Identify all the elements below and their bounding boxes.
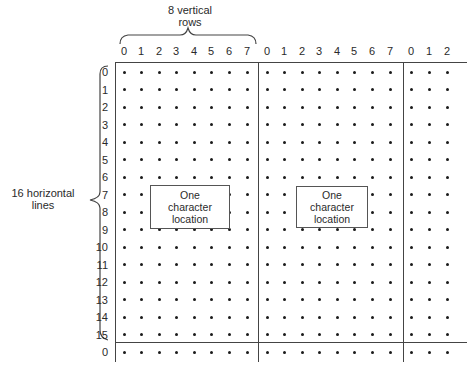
matrix-dot (266, 88, 269, 91)
matrix-dot (193, 316, 196, 319)
matrix-dot (428, 281, 431, 284)
matrix-dot (266, 351, 269, 354)
matrix-dot (123, 88, 126, 91)
matrix-dot (140, 316, 143, 319)
matrix-dot (389, 351, 392, 354)
matrix-dot (301, 298, 304, 301)
matrix-dot (410, 351, 413, 354)
matrix-dot (301, 281, 304, 284)
matrix-dot (389, 246, 392, 249)
matrix-dot (371, 298, 374, 301)
left-grid-line (115, 62, 116, 362)
matrix-dot (140, 281, 143, 284)
matrix-dot (123, 193, 126, 196)
matrix-dot (371, 106, 374, 109)
matrix-dot (410, 316, 413, 319)
matrix-dot (336, 351, 339, 354)
matrix-dot (410, 176, 413, 179)
matrix-dot (210, 176, 213, 179)
matrix-dot (228, 281, 231, 284)
matrix-dot (336, 123, 339, 126)
matrix-dot (266, 71, 269, 74)
row-header: 14 (90, 311, 108, 323)
matrix-dot (371, 333, 374, 336)
vertical-rows-line2: rows (140, 16, 240, 28)
matrix-dot (123, 176, 126, 179)
matrix-dot (246, 141, 249, 144)
matrix-dot (428, 351, 431, 354)
matrix-dot (158, 281, 161, 284)
matrix-dot (175, 298, 178, 301)
matrix-dot (353, 106, 356, 109)
matrix-dot (266, 106, 269, 109)
vertical-rows-label: 8 vertical rows (140, 4, 240, 28)
box-2-line1: One (297, 189, 367, 201)
bottom-grid-line (115, 342, 467, 343)
matrix-dot (301, 176, 304, 179)
matrix-dot (353, 316, 356, 319)
matrix-dot (140, 263, 143, 266)
matrix-dot (246, 106, 249, 109)
matrix-dot (158, 333, 161, 336)
matrix-dot (158, 123, 161, 126)
matrix-dot (228, 263, 231, 266)
matrix-dot (389, 316, 392, 319)
row-header: 0 (90, 66, 108, 78)
matrix-dot (158, 141, 161, 144)
matrix-dot (283, 281, 286, 284)
matrix-dot (246, 176, 249, 179)
row-header: 6 (90, 171, 108, 183)
matrix-dot (266, 141, 269, 144)
matrix-dot (283, 106, 286, 109)
matrix-dot (446, 333, 449, 336)
matrix-dot (336, 281, 339, 284)
matrix-dot (410, 88, 413, 91)
matrix-dot (318, 316, 321, 319)
matrix-dot (140, 176, 143, 179)
matrix-dot (283, 123, 286, 126)
column-header: 0 (260, 45, 274, 57)
matrix-dot (210, 106, 213, 109)
row-header: 7 (90, 189, 108, 201)
matrix-dot (228, 71, 231, 74)
matrix-dot (210, 141, 213, 144)
matrix-dot (353, 88, 356, 91)
matrix-dot (336, 228, 339, 231)
matrix-dot (210, 316, 213, 319)
matrix-dot (428, 158, 431, 161)
matrix-dot (283, 193, 286, 196)
box-2-line2: character (297, 201, 367, 213)
matrix-dot (140, 193, 143, 196)
box-1-line2: character (151, 201, 229, 213)
matrix-dot (389, 123, 392, 126)
matrix-dot (353, 158, 356, 161)
matrix-dot (410, 106, 413, 109)
column-header: 6 (365, 45, 379, 57)
matrix-dot (140, 298, 143, 301)
matrix-dot (318, 106, 321, 109)
horizontal-lines-line1: 16 horizontal (0, 187, 86, 199)
matrix-dot (246, 281, 249, 284)
matrix-dot (336, 333, 339, 336)
matrix-dot (246, 351, 249, 354)
matrix-dot (428, 298, 431, 301)
matrix-dot (371, 351, 374, 354)
matrix-dot (318, 281, 321, 284)
matrix-dot (318, 228, 321, 231)
matrix-dot (428, 246, 431, 249)
matrix-dot (389, 88, 392, 91)
column-header: 3 (169, 45, 183, 57)
horizontal-lines-label: 16 horizontal lines (0, 187, 86, 211)
matrix-dot (336, 71, 339, 74)
matrix-dot (428, 176, 431, 179)
matrix-dot (428, 228, 431, 231)
matrix-dot (266, 246, 269, 249)
matrix-dot (228, 141, 231, 144)
matrix-dot (301, 141, 304, 144)
matrix-dot (371, 211, 374, 214)
matrix-dot (266, 193, 269, 196)
matrix-dot (210, 263, 213, 266)
matrix-dot (410, 246, 413, 249)
matrix-dot (228, 333, 231, 336)
matrix-dot (193, 281, 196, 284)
